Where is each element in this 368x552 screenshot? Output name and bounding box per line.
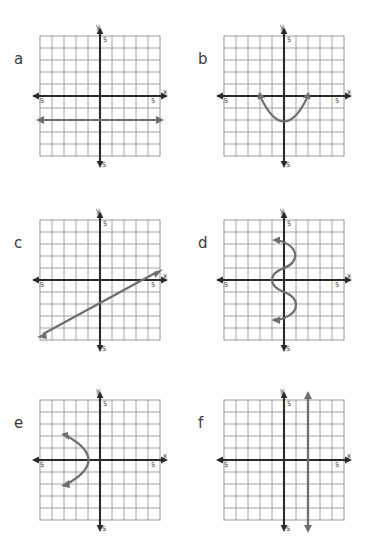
- x-min-tick-f: 5: [224, 461, 228, 469]
- y-max-tick-c: 5: [103, 220, 107, 228]
- x-min-tick-c: 5: [40, 281, 44, 289]
- x-min-tick-a: 5: [40, 97, 44, 105]
- x-max-tick-a: 5: [151, 97, 155, 105]
- graph-svg-b: 5 5 5 5 x y: [214, 22, 354, 174]
- y-max-tick-b: 5: [287, 36, 291, 44]
- graph-svg-e: 5 5 5 5 x y: [30, 386, 170, 538]
- y-min-tick-a: 5: [102, 161, 106, 169]
- y-axis-label-a: y: [96, 23, 100, 31]
- x-max-tick-e: 5: [151, 461, 155, 469]
- graph-panel-b: b: [184, 8, 368, 192]
- x-axis-label-f: x: [347, 452, 351, 460]
- y-min-tick-d: 5: [286, 345, 290, 353]
- x-min-tick-e: 5: [40, 461, 44, 469]
- y-axis-label-e: y: [96, 387, 100, 395]
- graph-panel-d: d: [184, 192, 368, 376]
- graph-label-b: b: [198, 50, 208, 68]
- y-max-tick-e: 5: [103, 400, 107, 408]
- y-axis-label-d: y: [280, 207, 284, 215]
- graph-label-d: d: [198, 234, 208, 252]
- y-max-tick-f: 5: [287, 400, 291, 408]
- graph-svg-c: 5 5 5 5 x y: [30, 206, 170, 358]
- graph-label-a: a: [14, 50, 23, 68]
- graph-panel-c: c: [0, 192, 184, 376]
- x-axis-label-e: x: [163, 452, 167, 460]
- x-max-tick-d: 5: [335, 281, 339, 289]
- y-max-tick-a: 5: [103, 36, 107, 44]
- graph-panel-e: e: [0, 372, 184, 552]
- graph-panel-f: f: [184, 372, 368, 552]
- graph-label-c: c: [14, 234, 22, 252]
- graph-label-e: e: [14, 414, 23, 432]
- graph-svg-a: 5 5 5 5 x y: [30, 22, 170, 174]
- y-axis-label-f: y: [280, 387, 284, 395]
- x-max-tick-b: 5: [335, 97, 339, 105]
- x-axis-label-d: x: [347, 272, 351, 280]
- worksheet-page: a: [0, 0, 368, 552]
- graph-label-f: f: [198, 414, 203, 432]
- x-max-tick-f: 5: [335, 461, 339, 469]
- graph-svg-f: 5 5 5 5 x y: [214, 386, 354, 538]
- y-max-tick-d: 5: [287, 220, 291, 228]
- y-min-tick-b: 5: [286, 161, 290, 169]
- y-axis-label-b: y: [280, 23, 284, 31]
- x-max-tick-c: 5: [151, 281, 155, 289]
- x-min-tick-b: 5: [224, 97, 228, 105]
- graph-svg-d: 5 5 5 5 x y: [214, 206, 354, 358]
- x-axis-label-c: x: [163, 272, 167, 280]
- x-min-tick-d: 5: [224, 281, 228, 289]
- y-min-tick-e: 5: [102, 525, 106, 533]
- y-axis-label-c: y: [96, 207, 100, 215]
- y-min-tick-c: 5: [102, 345, 106, 353]
- x-axis-label-b: x: [347, 88, 351, 96]
- graph-panel-a: a: [0, 8, 184, 192]
- y-min-tick-f: 5: [286, 525, 290, 533]
- x-axis-label-a: x: [163, 88, 167, 96]
